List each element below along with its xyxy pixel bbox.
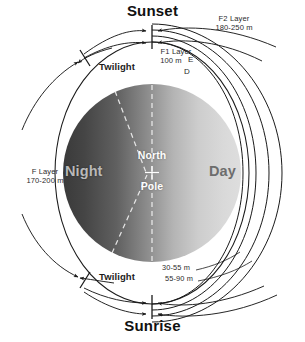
twilight-label-top: Twilight [99, 62, 135, 72]
ionosphere-diagram: Sunset Sunrise Twilight Twilight F2 Laye… [0, 0, 305, 342]
day-label: Day [209, 164, 236, 180]
sunrise-title: Sunrise [0, 318, 305, 334]
f1-layer-altitude: 100 m [133, 57, 209, 65]
f1-span-arrow-left-bottom [84, 288, 146, 303]
twilight-label-bottom: Twilight [99, 272, 135, 282]
f2-layer-name: F2 Layer [194, 15, 274, 23]
night-label: Night [65, 164, 103, 180]
f2-layer-altitude: 180-250 m [194, 24, 274, 32]
twilight-tick-top [80, 50, 90, 66]
north-pole-label-line1: North [122, 150, 182, 161]
d-layer-label: D [184, 68, 190, 77]
outer-sweep-arrow-top [22, 62, 78, 130]
d-layer-altitude: 30-55 m [148, 264, 204, 272]
f1-span-arrow-right-bottom [158, 286, 264, 305]
twilight-tick-bottom [80, 272, 90, 288]
e-layer-altitude: 55-90 m [151, 275, 207, 283]
north-pole-label-line2: Pole [122, 181, 182, 192]
f1-layer-name: F1 Layer [138, 48, 214, 56]
e-layer-label: E [188, 56, 193, 65]
outer-sweep-arrow-bottom [22, 214, 78, 277]
f1-span-arrow-left [84, 43, 146, 58]
